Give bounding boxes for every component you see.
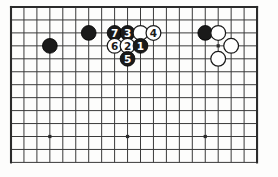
star-point-left (48, 135, 51, 138)
white-stone-upper-right-b (224, 38, 239, 53)
white-stone-upper-right-a (211, 26, 226, 41)
white-stone-disc (224, 38, 239, 53)
go-board-diagram: 7346215 (0, 0, 278, 177)
black-move-1: 1 (133, 38, 148, 53)
white-stone-disc (146, 26, 161, 41)
black-stone-upper-left (81, 26, 96, 41)
black-stone-disc (133, 38, 148, 53)
black-move-5: 5 (120, 51, 135, 66)
star-point-upper-right (217, 44, 220, 47)
black-stone-disc (120, 51, 135, 66)
black-stone-disc (81, 26, 96, 41)
star-point-right (204, 135, 207, 138)
white-stone-upper-right-c (211, 51, 226, 66)
black-stone-disc (42, 38, 57, 53)
black-stone-left-approach (42, 38, 57, 53)
white-stone-disc (211, 51, 226, 66)
go-board-canvas: 7346215 (0, 0, 278, 177)
white-stone-disc (211, 26, 226, 41)
star-point-center (126, 135, 129, 138)
white-move-4: 4 (146, 26, 161, 41)
